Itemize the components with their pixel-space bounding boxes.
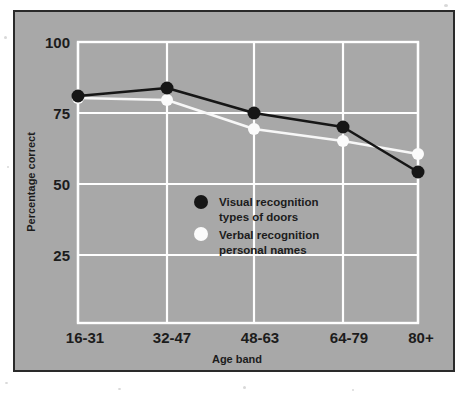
page-speckle-1: [4, 36, 7, 39]
x-tick-48-63: 48-63: [241, 329, 279, 346]
data-point-verbal-64-79: [337, 135, 349, 147]
data-point-verbal-80plus: [412, 148, 424, 160]
legend-marker-visual-recognition: [194, 195, 208, 209]
x-tick-16-31: 16-31: [66, 329, 104, 346]
page-speckle-6: [352, 389, 354, 391]
series-line-verbal-recognition: [78, 98, 418, 154]
data-point-verbal-32-47: [161, 94, 173, 106]
y-tick-50: 50: [53, 176, 70, 193]
data-point-verbal-48-63: [248, 123, 260, 135]
x-tick-80plus: 80+: [408, 329, 434, 346]
data-point-visual-16-31: [72, 90, 85, 103]
horizontal-gridlines: [78, 42, 418, 255]
y-axis-title: Percentage correct: [25, 132, 37, 232]
series-line-visual-recognition: [78, 88, 418, 172]
y-tick-25: 25: [53, 247, 70, 264]
plot-area-frame: [78, 42, 418, 323]
x-tick-32-47: 32-47: [153, 329, 191, 346]
chart-legend: Visual recognition types of doors Verbal…: [194, 195, 319, 256]
data-point-visual-48-63: [248, 107, 261, 120]
y-axis-tick-labels: 100 75 50 25: [45, 34, 70, 264]
data-point-visual-32-47: [161, 82, 174, 95]
legend-label-verbal-line2: personal names: [219, 244, 307, 256]
y-tick-75: 75: [53, 105, 70, 122]
y-tick-100: 100: [45, 34, 70, 51]
page-speckle-3: [5, 382, 8, 384]
x-axis-tick-labels: 16-31 32-47 48-63 64-79 80+: [66, 329, 434, 346]
legend-label-visual-line2: types of doors: [219, 211, 298, 223]
line-chart: 100 75 50 25 Percentage correct 16-31 32…: [15, 12, 453, 370]
series-markers-visual-recognition: [72, 82, 425, 179]
page-speckle-5: [243, 386, 246, 389]
x-tick-64-79: 64-79: [330, 329, 368, 346]
legend-label-visual-line1: Visual recognition: [219, 196, 318, 208]
legend-label-verbal-line1: Verbal recognition: [219, 229, 319, 241]
vertical-gridlines: [78, 42, 418, 323]
data-point-visual-80plus: [412, 166, 425, 179]
legend-marker-verbal-recognition: [194, 227, 208, 241]
page-speckle-2: [7, 166, 9, 168]
page-speckle-4: [118, 388, 121, 390]
figure-panel: 100 75 50 25 Percentage correct 16-31 32…: [13, 10, 455, 372]
page-speckle-7: [444, 4, 448, 7]
data-point-visual-64-79: [337, 121, 350, 134]
x-axis-title: Age band: [212, 353, 262, 365]
